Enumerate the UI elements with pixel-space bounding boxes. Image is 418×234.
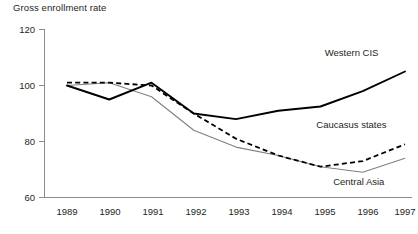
y-tick-label-80: 80: [24, 136, 35, 147]
series-label-western-cis: Western CIS: [325, 47, 379, 58]
x-tick-label-1991: 1991: [142, 206, 163, 217]
chart-container: Gross enrollment rate 120 100 80 60 1989…: [0, 0, 418, 234]
x-tick-label-1990: 1990: [99, 206, 120, 217]
x-tick-label-1995: 1995: [314, 206, 335, 217]
y-tick-label-120: 120: [19, 24, 35, 35]
y-tick-label-100: 100: [19, 80, 35, 91]
line-chart-plot: 120 100 80 60 1989 1990 1991 1992 1993 1…: [0, 0, 418, 234]
x-tick-label-1996: 1996: [357, 206, 378, 217]
series-line-western-cis: [67, 72, 405, 120]
series-label-central-asia: Central Asia: [333, 176, 385, 187]
x-tick-label-1992: 1992: [185, 206, 206, 217]
x-tick-label-1994: 1994: [271, 206, 292, 217]
x-tick-label-1989: 1989: [56, 206, 77, 217]
x-tick-label-1997: 1997: [394, 206, 415, 217]
x-tick-label-1993: 1993: [228, 206, 249, 217]
y-tick-label-60: 60: [24, 192, 35, 203]
series-label-caucasus-states: Caucasus states: [316, 119, 386, 130]
